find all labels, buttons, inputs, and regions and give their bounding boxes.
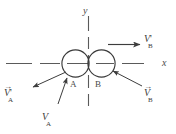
v-b-arrow: [113, 71, 142, 86]
v-a-label: V A: [42, 112, 51, 128]
v-a-symbol: V: [42, 112, 48, 122]
x-axis-label: x: [162, 58, 166, 68]
v-a-prime-label: → V ' A: [4, 88, 13, 104]
vector-arrow-icon: →: [144, 83, 150, 91]
circle-a-label: A: [70, 80, 77, 89]
v-a-arrow: [58, 78, 67, 104]
vector-arrow-icon: →: [4, 83, 10, 91]
v-b-label: → V B: [144, 88, 153, 104]
collision-diagram: y x A B → V ' A V A V ' B → V B: [0, 0, 176, 134]
diagram-canvas: [0, 0, 176, 134]
v-b-prime-symbol: V: [144, 34, 150, 44]
v-b-symbol: → V: [144, 88, 150, 98]
v-a-prime-arrow: [33, 72, 66, 87]
v-b-prime-label: V ' B: [144, 34, 153, 50]
circle-b-label: B: [95, 80, 101, 89]
v-a-prime-symbol: → V: [4, 88, 10, 98]
y-axis-label: y: [83, 6, 87, 16]
